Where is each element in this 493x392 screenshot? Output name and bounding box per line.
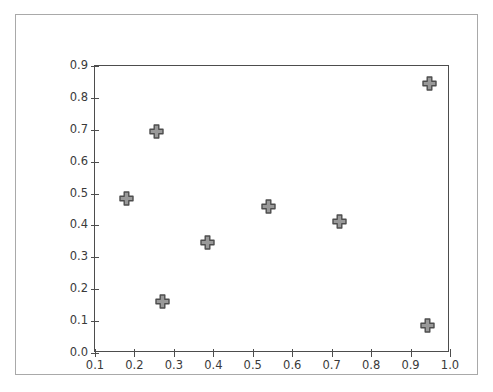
- scatter-point-marker: [332, 214, 347, 229]
- x-axis-tick-inner: [253, 349, 254, 353]
- x-axis-tick: [411, 353, 412, 357]
- x-axis-tick: [213, 353, 214, 357]
- y-axis-tick-inner: [95, 98, 99, 99]
- x-axis-tick: [174, 353, 175, 357]
- y-axis-tick-label: 0.8: [70, 92, 88, 104]
- scatter-point-marker: [149, 124, 164, 139]
- y-axis-tick-label: 0.6: [70, 156, 88, 168]
- scatter-point-marker: [119, 191, 134, 206]
- x-axis-tick-label: 0.2: [125, 360, 143, 372]
- x-axis-tick-inner: [134, 349, 135, 353]
- x-axis-tick-inner: [95, 349, 96, 353]
- x-axis-tick-inner: [213, 349, 214, 353]
- y-axis-tick-inner: [95, 194, 99, 195]
- y-axis-tick-inner: [95, 257, 99, 258]
- y-axis-tick-inner: [95, 225, 99, 226]
- x-axis-tick-inner: [292, 349, 293, 353]
- scatter-point-marker: [261, 199, 276, 214]
- plot-axes-area: 0.00.10.20.30.40.50.60.70.80.90.10.20.30…: [94, 65, 449, 352]
- x-axis-tick-inner: [174, 349, 175, 353]
- x-axis-tick: [253, 353, 254, 357]
- x-axis-tick: [371, 353, 372, 357]
- x-axis-tick: [95, 353, 96, 357]
- plot-canvas: 0.00.10.20.30.40.50.60.70.80.90.10.20.30…: [95, 66, 450, 353]
- x-axis-tick: [134, 353, 135, 357]
- y-axis-tick-inner: [95, 162, 99, 163]
- y-axis-tick-label: 0.9: [70, 60, 88, 72]
- x-axis-tick: [332, 353, 333, 357]
- x-axis-tick: [450, 353, 451, 357]
- y-axis-tick-inner: [95, 130, 99, 131]
- x-axis-tick-inner: [332, 349, 333, 353]
- y-axis-tick-label: 0.2: [70, 283, 88, 295]
- x-axis-tick: [292, 353, 293, 357]
- scatter-point-marker: [200, 235, 215, 250]
- y-axis-tick-label: 0.1: [70, 315, 88, 327]
- y-axis-tick-label: 0.5: [70, 188, 88, 200]
- y-axis-tick-inner: [95, 66, 99, 67]
- x-axis-tick-label: 1.0: [441, 360, 459, 372]
- x-axis-tick-label: 0.1: [86, 360, 104, 372]
- scatter-point-marker: [420, 318, 435, 333]
- x-axis-tick-label: 0.8: [362, 360, 380, 372]
- figure-root: 0.00.10.20.30.40.50.60.70.80.90.10.20.30…: [0, 0, 493, 392]
- x-axis-tick-label: 0.5: [244, 360, 262, 372]
- x-axis-tick-label: 0.7: [323, 360, 341, 372]
- scatter-point-marker: [422, 76, 437, 91]
- x-axis-tick-inner: [371, 349, 372, 353]
- x-axis-tick-label: 0.6: [283, 360, 301, 372]
- y-axis-tick-inner: [95, 321, 99, 322]
- x-axis-tick-label: 0.9: [401, 360, 419, 372]
- y-axis-tick-inner: [95, 289, 99, 290]
- scatter-point-marker: [155, 294, 170, 309]
- figure-outer-frame: 0.00.10.20.30.40.50.60.70.80.90.10.20.30…: [15, 14, 478, 375]
- x-axis-tick-inner: [411, 349, 412, 353]
- y-axis-tick-label: 0.4: [70, 220, 88, 232]
- x-axis-tick-label: 0.4: [204, 360, 222, 372]
- x-axis-tick-label: 0.3: [165, 360, 183, 372]
- x-axis-tick-inner: [450, 349, 451, 353]
- y-axis-tick-label: 0.7: [70, 124, 88, 136]
- y-axis-tick-label: 0.3: [70, 252, 88, 264]
